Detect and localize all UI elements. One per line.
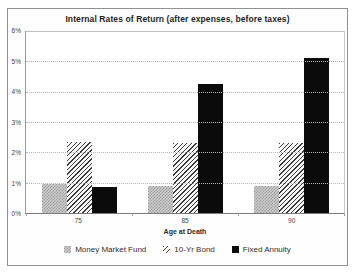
legend-item-money-market-fund: Money Market Fund bbox=[64, 245, 146, 254]
legend-label: Money Market Fund bbox=[75, 245, 146, 254]
chart-frame: Internal Rates of Return (after expenses… bbox=[7, 8, 348, 266]
x-axis-tick bbox=[238, 213, 239, 216]
bar-fixed-annuity bbox=[198, 84, 223, 213]
gridline bbox=[26, 61, 344, 62]
y-axis-tick-label: 3% bbox=[12, 119, 21, 127]
x-axis-tick-label: 90 bbox=[238, 217, 345, 224]
gridline bbox=[26, 183, 344, 184]
y-axis-tick-label: 5% bbox=[12, 58, 21, 66]
gridline bbox=[26, 31, 344, 32]
legend: Money Market Fund10-Yr BondFixed Annuity bbox=[8, 245, 347, 254]
bar-fixed-annuity bbox=[92, 187, 117, 213]
bar-10-yr-bond bbox=[173, 143, 198, 213]
legend-swatch-money-market-fund bbox=[64, 246, 71, 253]
bar-money-market-fund bbox=[148, 186, 173, 213]
bar-10-yr-bond bbox=[279, 143, 304, 213]
y-axis-tick-label: 0% bbox=[12, 210, 21, 218]
gridline bbox=[26, 122, 344, 123]
y-axis-tick-label: 4% bbox=[12, 88, 21, 96]
x-axis-tick bbox=[132, 213, 133, 216]
x-axis-title: Age at Death bbox=[25, 228, 345, 235]
bar-fixed-annuity bbox=[304, 58, 329, 213]
y-axis-tick-labels: 0%1%2%3%4%5%6% bbox=[8, 31, 23, 214]
x-axis-tick-labels: 758590 bbox=[25, 217, 345, 224]
plot-area bbox=[25, 31, 345, 214]
y-axis-tick-label: 1% bbox=[12, 180, 21, 188]
legend-swatch-fixed-annuity bbox=[232, 246, 239, 253]
gridline bbox=[26, 152, 344, 153]
x-axis-tick bbox=[344, 213, 345, 216]
x-axis-tick-label: 85 bbox=[132, 217, 239, 224]
legend-item-10-yr-bond: 10-Yr Bond bbox=[163, 245, 214, 254]
legend-item-fixed-annuity: Fixed Annuity bbox=[232, 245, 291, 254]
legend-label: 10-Yr Bond bbox=[174, 245, 214, 254]
x-axis-tick-label: 75 bbox=[25, 217, 132, 224]
y-axis-tick-label: 2% bbox=[12, 149, 21, 157]
legend-label: Fixed Annuity bbox=[243, 245, 291, 254]
bar-money-market-fund bbox=[42, 184, 67, 213]
bar-money-market-fund bbox=[254, 186, 279, 213]
gridline bbox=[26, 92, 344, 93]
chart-title: Internal Rates of Return (after expenses… bbox=[8, 14, 347, 24]
x-axis-tick bbox=[26, 213, 27, 216]
legend-swatch-10-yr-bond bbox=[163, 246, 170, 253]
y-axis-tick-label: 6% bbox=[12, 27, 21, 35]
